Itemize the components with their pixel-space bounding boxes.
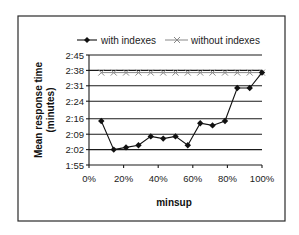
x-tick-label: 20% [114,173,134,184]
x-tick-label: 100% [250,173,275,184]
y-tick-label: 2:02 [66,144,85,155]
x-axis-title: minsup [156,197,192,208]
y-tick-label: 2:38 [66,65,85,76]
y-axis-title-line2: (minutes) [45,88,56,133]
x-tick-label: 60% [183,173,203,184]
legend-label-without-indexes: without indexes [190,35,260,46]
y-tick-label: 2:16 [66,113,85,124]
y-tick-label: 2:24 [66,96,85,107]
y-tick-label: 2:31 [66,80,85,91]
y-tick-label: 1:55 [66,160,85,171]
legend-label-with-indexes: with indexes [100,35,156,46]
x-tick-label: 40% [149,173,169,184]
y-tick-label: 2:09 [66,129,85,140]
x-tick-label: 0% [82,173,96,184]
y-axis-title-line1: Mean response time [33,61,44,158]
y-tick-label: 2:45 [66,50,85,61]
line-chart: with indexes without indexes 1:552:022:0… [0,0,299,235]
x-tick-label: 80% [218,173,238,184]
